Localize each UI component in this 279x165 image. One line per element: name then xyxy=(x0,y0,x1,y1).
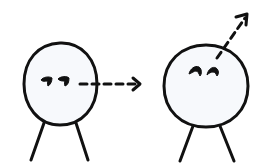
gaze-diagram xyxy=(0,0,279,165)
diagram-svg xyxy=(0,0,279,165)
right-leg-2 xyxy=(220,126,234,161)
right-head xyxy=(164,45,248,127)
left-leg-2 xyxy=(76,123,88,160)
right-figure xyxy=(164,14,248,161)
left-figure xyxy=(24,43,140,160)
right-leg-1 xyxy=(180,126,193,161)
left-leg-1 xyxy=(31,123,44,160)
